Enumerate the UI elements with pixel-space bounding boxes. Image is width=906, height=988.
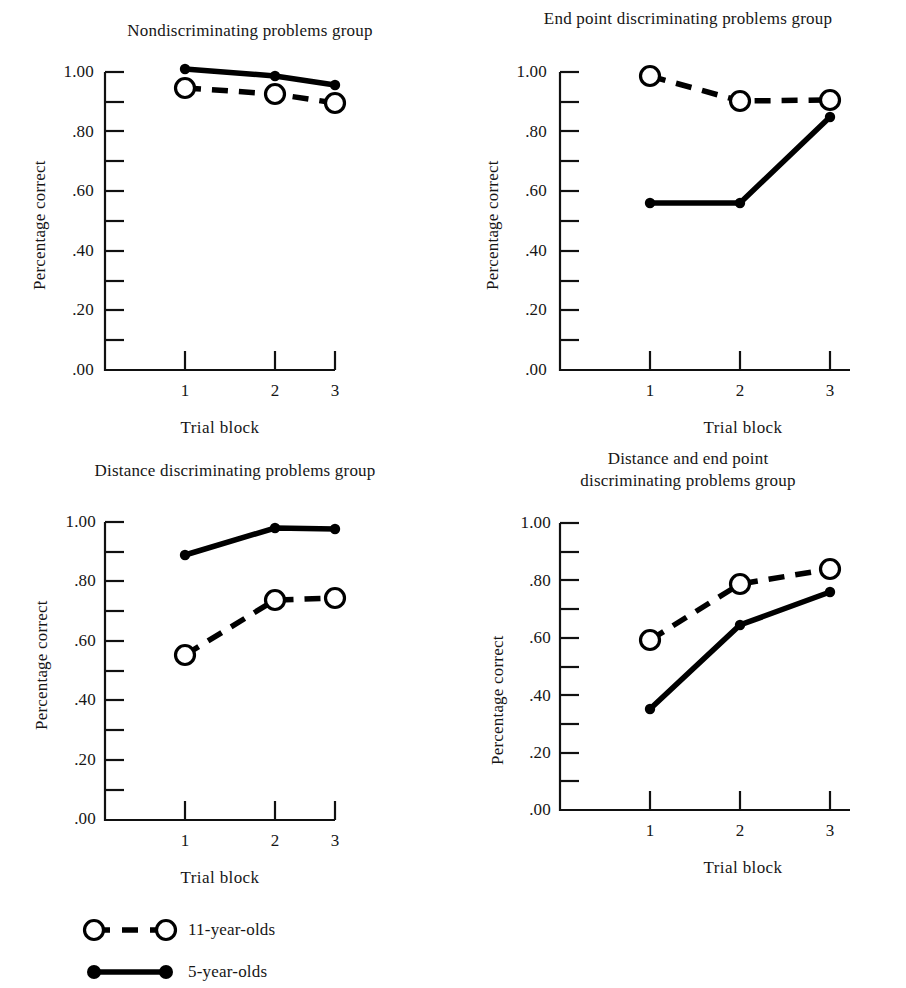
data-point: [645, 704, 655, 714]
plot-area: [453, 0, 906, 400]
data-point: [641, 631, 660, 650]
legend-item-11-year-olds: 11-year-olds: [80, 916, 275, 944]
data-point: [270, 523, 280, 533]
plot-area: [0, 0, 453, 400]
legend-marker-open-circle-dashed: [80, 916, 180, 944]
data-point: [180, 550, 190, 560]
x-axis-label: Trial block: [120, 418, 320, 438]
plot-area: [453, 440, 906, 840]
series-line-5-year-olds: [185, 69, 335, 85]
data-point: [266, 591, 285, 610]
data-point: [330, 524, 340, 534]
data-point: [735, 620, 745, 630]
legend-item-5-year-olds: 5-year-olds: [80, 958, 267, 986]
panel-nondiscriminating: Nondiscriminating problems group Percent…: [0, 0, 453, 440]
data-point: [180, 64, 190, 74]
x-axis-label: Trial block: [643, 418, 843, 438]
series-line-5-year-olds: [185, 528, 335, 555]
data-point: [821, 560, 840, 579]
data-point: [266, 85, 285, 104]
legend-label: 5-year-olds: [188, 962, 267, 982]
data-point: [821, 91, 840, 110]
data-point: [330, 80, 340, 90]
panel-distance-and-end-point-discriminating: Distance and end point discriminating pr…: [453, 440, 906, 910]
series-line-11-year-olds: [185, 598, 335, 655]
series-line-5-year-olds: [650, 592, 830, 709]
data-point: [825, 112, 835, 122]
data-point: [270, 71, 280, 81]
series-line-11-year-olds: [185, 88, 335, 103]
data-point: [176, 79, 195, 98]
legend-marker-filled-circle-solid: [80, 958, 180, 986]
data-point: [326, 94, 345, 113]
x-axis-label: Trial block: [643, 858, 843, 878]
figure-legend: 11-year-olds 5-year-olds: [0, 900, 420, 980]
series-line-5-year-olds: [650, 117, 830, 203]
data-point: [731, 92, 750, 111]
plot-area: [0, 440, 453, 850]
data-point: [176, 646, 195, 665]
panel-distance-discriminating: Distance discriminating problems group P…: [0, 440, 453, 900]
data-point: [731, 575, 750, 594]
x-axis-label: Trial block: [120, 868, 320, 888]
data-point: [825, 587, 835, 597]
legend-label: 11-year-olds: [188, 920, 275, 940]
data-point: [641, 67, 660, 86]
data-point: [645, 198, 655, 208]
data-point: [735, 198, 745, 208]
data-point: [326, 589, 345, 608]
figure-four-panel-line-charts: Nondiscriminating problems group Percent…: [0, 0, 906, 988]
panel-end-point-discriminating: End point discriminating problems group …: [453, 0, 906, 440]
